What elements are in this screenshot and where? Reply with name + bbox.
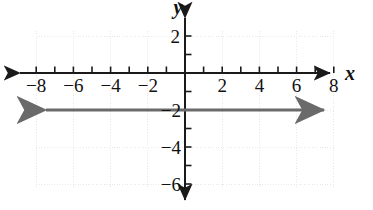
graph-figure: −8 −6 −4 −2 2 4 6 8 2 −2 −4 −6 x y [0, 0, 373, 210]
x-tick-label: −6 [63, 75, 83, 96]
x-axis-label: x [344, 62, 355, 84]
y-tick-label: 2 [171, 26, 181, 47]
y-tick-labels: 2 −2 −4 −6 [161, 26, 182, 195]
y-axis-label: y [172, 0, 183, 19]
coordinate-plane-svg: −8 −6 −4 −2 2 4 6 8 2 −2 −4 −6 x y [0, 0, 373, 210]
x-tick-label: −4 [100, 75, 121, 96]
x-tick-label: −2 [138, 75, 158, 96]
x-tick-label: 2 [217, 75, 227, 96]
x-axis [20, 67, 334, 74]
y-tick-label: −6 [161, 174, 181, 195]
x-tick-label: 8 [329, 75, 339, 96]
y-tick-label: −2 [161, 100, 181, 121]
x-tick-label: 6 [292, 75, 302, 96]
x-tick-label: −8 [26, 75, 46, 96]
y-tick-label: −4 [161, 137, 182, 158]
x-tick-label: 4 [255, 75, 265, 96]
x-tick-labels: −8 −6 −4 −2 2 4 6 8 [26, 75, 338, 96]
